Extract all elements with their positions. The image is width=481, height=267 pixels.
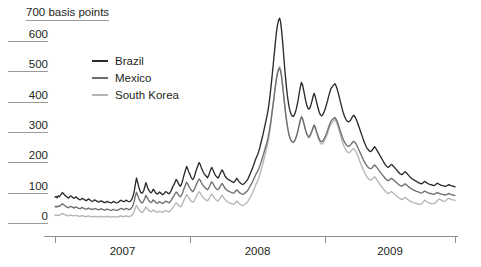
legend-swatch (92, 60, 108, 62)
x-axis-tick-label: 2008 (228, 245, 288, 257)
x-axis-tick-label: 2009 (360, 245, 420, 257)
y-axis-tick-label: 200 (8, 149, 48, 163)
x-axis-tick-label: 2007 (93, 245, 153, 257)
bond-spread-chart: 700 basis points 0100200300400500600 200… (0, 0, 481, 267)
y-axis-tick-label: 600 (8, 28, 48, 42)
legend-swatch (92, 94, 108, 96)
x-axis-tick (455, 236, 456, 243)
legend-swatch (92, 77, 108, 79)
y-tick-underline (8, 162, 48, 163)
y-axis-tick-label: 300 (8, 119, 48, 133)
y-axis-tick-label: 500 (8, 58, 48, 72)
legend-label: Brazil (115, 55, 144, 67)
plot-area (52, 16, 456, 223)
y-axis-tick-label: 0 (8, 210, 48, 224)
legend-item-brazil: Brazil (92, 52, 179, 69)
x-axis-tick (190, 236, 191, 243)
x-axis-tick (325, 236, 326, 243)
y-tick-underline (8, 41, 48, 42)
legend-label: South Korea (115, 89, 179, 101)
legend-item-south-korea: South Korea (92, 86, 179, 103)
y-tick-underline (8, 193, 48, 194)
y-tick-underline (8, 71, 48, 72)
y-tick-underline (8, 102, 48, 103)
y-axis-tick-label: 400 (8, 89, 48, 103)
legend-label: Mexico (115, 72, 151, 84)
y-tick-underline (8, 223, 48, 224)
x-axis-tick (55, 236, 56, 243)
x-axis-line (44, 236, 458, 237)
series-canvas (52, 16, 456, 223)
y-tick-underline (8, 132, 48, 133)
y-axis-tick-label: 100 (8, 180, 48, 194)
chart-legend: BrazilMexicoSouth Korea (92, 52, 179, 103)
legend-item-mexico: Mexico (92, 69, 179, 86)
